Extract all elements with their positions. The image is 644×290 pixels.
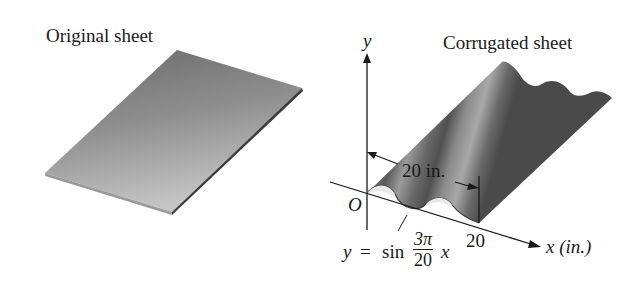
fraction-numerator: 3π: [413, 230, 433, 250]
equation-var: x: [441, 241, 449, 263]
equation-leader: [398, 215, 407, 231]
corrugated-sheet: [368, 62, 612, 223]
origin-label: O: [348, 194, 362, 216]
dimension-line: [372, 154, 398, 164]
y-axis-arrow-icon: [363, 53, 371, 63]
y-axis-label: y: [363, 30, 371, 52]
original-sheet-title: Original sheet: [46, 25, 153, 47]
equation-equals: =: [360, 241, 371, 263]
x-axis-arrow-icon: [528, 240, 541, 248]
original-sheet: [45, 50, 303, 215]
x-axis-label: x (in.): [546, 236, 591, 258]
equation-fraction: 3π 20: [413, 230, 433, 269]
equation-lhs: y: [343, 241, 351, 263]
dimension-label: 20 in.: [402, 160, 445, 182]
x-tick-label-20: 20: [466, 230, 485, 252]
corrugated-sheet-title: Corrugated sheet: [443, 32, 572, 54]
fraction-denominator: 20: [414, 250, 432, 269]
dimension-arrow-left-icon: [367, 152, 377, 159]
x-axis-var: x (in.): [546, 236, 591, 257]
equation-func: sin: [382, 241, 404, 263]
